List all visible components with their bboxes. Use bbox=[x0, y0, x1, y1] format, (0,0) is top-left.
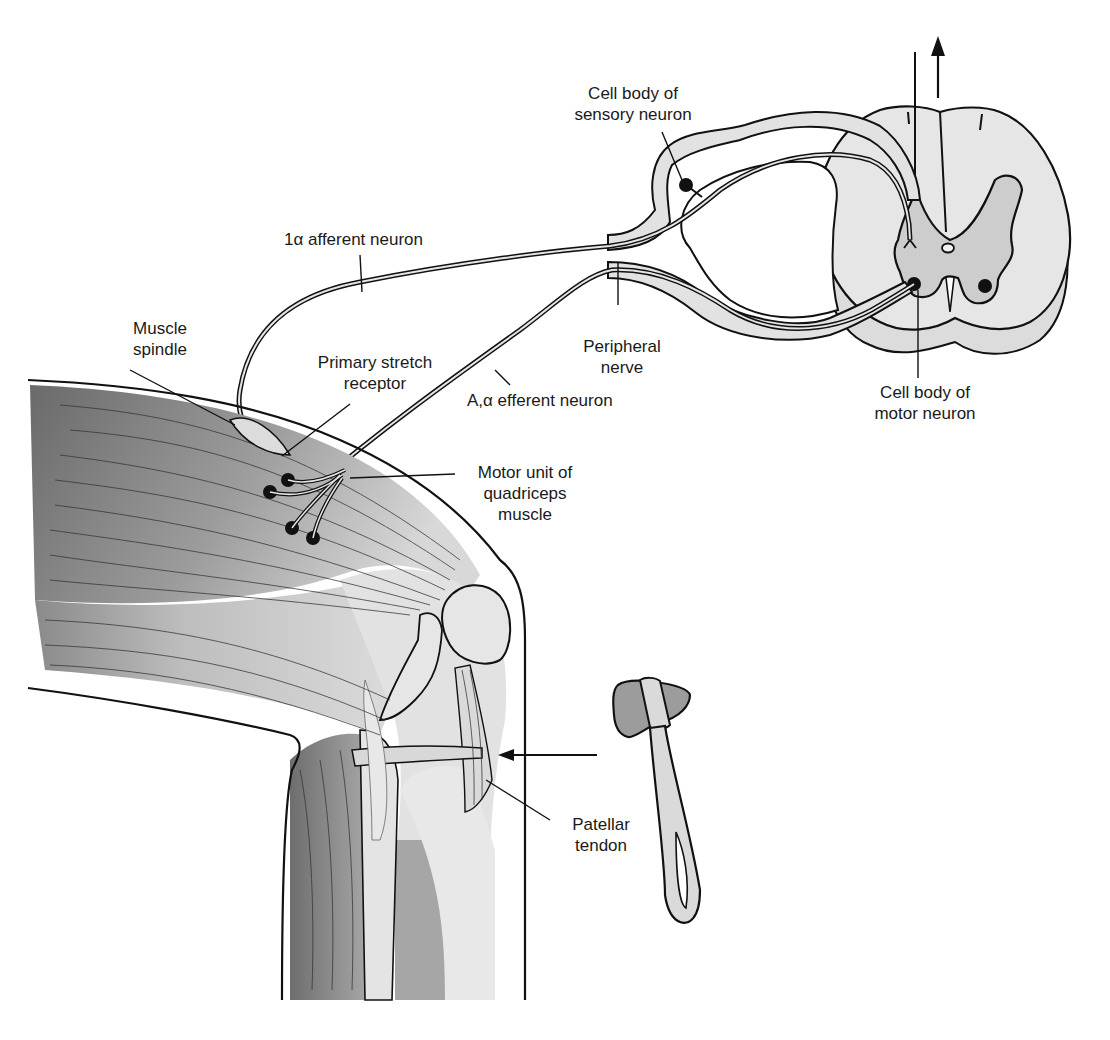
upward-arrow-icon bbox=[931, 36, 945, 98]
knee-leg bbox=[28, 380, 525, 1000]
label-cell-body-motor: Cell body of motor neuron bbox=[860, 382, 990, 424]
label-efferent-neuron: A,α efferent neuron bbox=[467, 390, 613, 411]
label-muscle-spindle: Muscle spindle bbox=[120, 318, 200, 360]
stimulus-arrow-icon bbox=[498, 749, 597, 761]
label-patellar-tendon: Patellar tendon bbox=[556, 814, 646, 856]
label-afferent-neuron: 1α afferent neuron bbox=[284, 229, 423, 250]
reflex-hammer-icon bbox=[613, 678, 700, 923]
label-peripheral-nerve: Peripheral nerve bbox=[572, 336, 672, 378]
reflex-arc-diagram: Cell body of sensory neuron 1α afferent … bbox=[0, 0, 1110, 1040]
label-motor-unit: Motor unit of quadriceps muscle bbox=[460, 462, 590, 525]
label-cell-body-sensory: Cell body of sensory neuron bbox=[548, 83, 718, 125]
label-primary-stretch-receptor: Primary stretch receptor bbox=[300, 352, 450, 394]
